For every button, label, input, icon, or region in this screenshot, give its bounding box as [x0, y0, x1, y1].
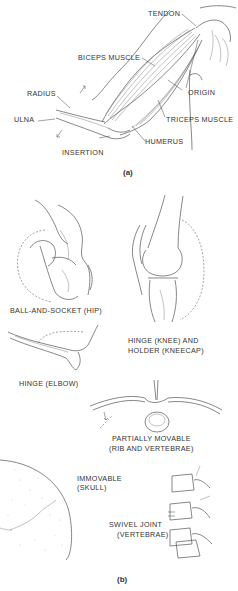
label-knee-joint-line2: HOLDER (KNEECAP) [128, 347, 204, 355]
hip-joint-drawing [17, 200, 92, 302]
label-vertebrae-joint-line1: SWIVEL JOINT [109, 521, 162, 529]
caption-b: (b) [117, 575, 127, 584]
label-elbow-joint: HINGE (ELBOW) [19, 380, 78, 388]
label-knee-joint-line1: HINGE (KNEE) AND [128, 337, 199, 345]
joints-illustration [0, 0, 238, 591]
skull-stipple [8, 470, 63, 551]
label-skull-joint-line2: (SKULL) [77, 484, 107, 492]
vertebrae-stack-drawing [168, 466, 212, 558]
knee-joint-drawing [132, 195, 204, 322]
label-rib-joint-line1: PARTIALLY MOVABLE [112, 435, 191, 443]
label-hip-joint: BALL-AND-SOCKET (HIP) [10, 307, 102, 315]
rib-vertebra-drawing [90, 380, 222, 432]
label-rib-joint-line2: (RIB AND VERTEBRAE) [109, 445, 194, 453]
skull-drawing [0, 460, 72, 560]
label-skull-joint-line1: IMMOVABLE [77, 475, 122, 483]
label-vertebrae-joint-line2: (VERTEBRAE) [117, 531, 169, 539]
elbow-joint-drawing [8, 325, 98, 370]
